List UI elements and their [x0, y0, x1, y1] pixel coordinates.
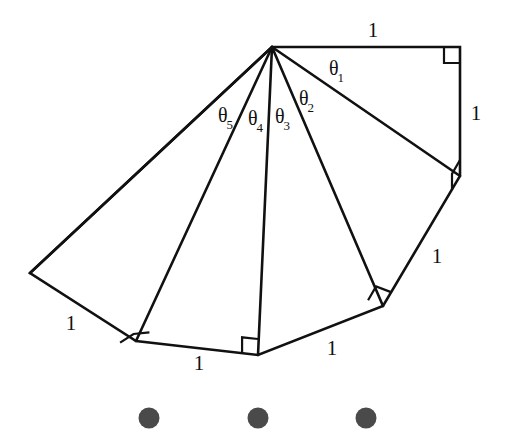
theta-subscript: 5	[227, 117, 234, 132]
spoke-to-v5	[136, 47, 272, 341]
length-label-left: 1	[66, 313, 77, 334]
ellipsis-dot-2	[248, 408, 269, 429]
ellipsis-dot-1	[139, 408, 160, 429]
theta-subscript: 3	[284, 118, 291, 133]
right-angle-1	[444, 47, 460, 63]
angle-label-theta-2: θ2	[299, 88, 315, 112]
right-angle-markers-group	[120, 47, 460, 353]
polygon-outline-group	[30, 47, 460, 355]
length-label-lower-right: 1	[432, 246, 443, 267]
angle-label-theta-5: θ5	[218, 105, 234, 129]
right-angle-4	[242, 337, 258, 353]
theta-subscript: 4	[257, 120, 264, 135]
apex-spokes-group	[30, 47, 460, 355]
polygon-outline	[30, 47, 460, 355]
theta-subscript: 1	[338, 70, 345, 85]
length-label-right: 1	[471, 103, 482, 124]
spiral-of-theodorus-figure	[0, 0, 505, 440]
length-label-top: 1	[368, 20, 379, 41]
ellipsis-dot-3	[356, 408, 377, 429]
angle-label-theta-4: θ4	[248, 108, 264, 132]
spoke-to-v4	[258, 47, 272, 355]
length-label-bottom-right: 1	[327, 338, 338, 359]
angle-label-theta-3: θ3	[275, 106, 291, 130]
spoke-to-v6	[30, 47, 272, 273]
angle-label-theta-1: θ1	[329, 58, 345, 82]
diagram-canvas: 111111 θ1θ2θ3θ4θ5	[0, 0, 505, 440]
length-label-bottom-left: 1	[194, 353, 205, 374]
theta-subscript: 2	[308, 100, 315, 115]
